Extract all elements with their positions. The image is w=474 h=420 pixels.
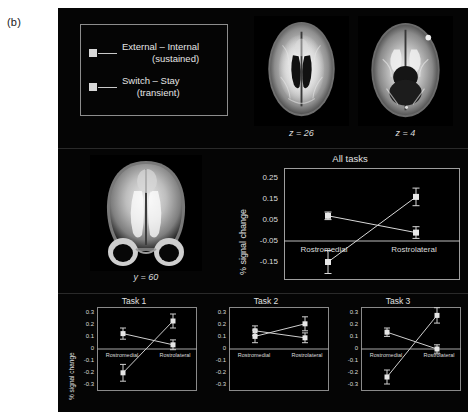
xtick-rostrolateral: Rostrolateral xyxy=(282,352,332,358)
chart-all-tasks: All tasks % signal change 0.25 0.15 0.05… xyxy=(234,153,466,289)
brain-image-axial-1 xyxy=(254,16,349,126)
chart-task-1: Task 1 % signal change 0.3 0.2 0.1 0 -0.… xyxy=(66,296,202,410)
legend-label-transient-line1: Switch – Stay xyxy=(122,75,180,86)
xtick-rostrolateral: Rostrolateral xyxy=(414,352,464,358)
brain-image-coronal xyxy=(90,155,202,271)
xtick-rostromedial: Rostromedial xyxy=(286,245,362,254)
coronal-slice-y60-caption: y = 60 xyxy=(90,272,202,282)
ytick-2: 0.05 xyxy=(252,215,278,224)
axial-slice-z26: z = 26 xyxy=(254,16,349,126)
legend: External – Internal (sustained) Switch –… xyxy=(80,24,228,116)
square-marker-icon xyxy=(89,49,97,57)
figure-container: External – Internal (sustained) Switch –… xyxy=(58,8,468,412)
chart-all-tasks-ylabel: % signal change xyxy=(238,209,248,275)
legend-label-sustained: External – Internal (sustained) xyxy=(122,41,199,65)
ytick-4: -0.15 xyxy=(252,257,278,266)
legend-label-sustained-line2: (sustained) xyxy=(122,53,199,65)
ytick-0: 0.3 xyxy=(340,309,358,315)
chart-task-3: Task 3 0.3 0.2 0.1 0 -0.1 -0.2 -0.3 xyxy=(330,296,466,410)
ytick-3: 0 xyxy=(340,345,358,351)
chart-all-tasks-title: All tasks xyxy=(234,153,466,164)
ytick-3: 0 xyxy=(76,345,94,351)
ytick-1: 0.15 xyxy=(252,194,278,203)
ytick-4: -0.1 xyxy=(76,357,94,363)
ytick-4: -0.1 xyxy=(340,357,358,363)
ytick-2: 0.1 xyxy=(340,333,358,339)
ytick-0: 0.25 xyxy=(252,173,278,182)
ytick-2: 0.1 xyxy=(208,333,226,339)
xtick-rostromedial: Rostromedial xyxy=(230,352,278,358)
chart-task-3-plot xyxy=(361,307,461,391)
legend-item-transient: Switch – Stay (transient) xyxy=(89,75,180,99)
ytick-3: -0.05 xyxy=(252,236,278,245)
ytick-6: -0.3 xyxy=(76,381,94,387)
figure-band-top: External – Internal (sustained) Switch –… xyxy=(58,8,468,149)
chart-task-2: Task 2 0.3 0.2 0.1 0 -0.1 -0.2 -0.3 xyxy=(198,296,334,410)
ytick-5: -0.2 xyxy=(208,369,226,375)
axial-slice-z26-caption: z = 26 xyxy=(254,128,349,138)
axial-slice-z4: z = 4 xyxy=(358,16,453,126)
ytick-6: -0.3 xyxy=(340,381,358,387)
ytick-0: 0.3 xyxy=(208,309,226,315)
ytick-5: -0.2 xyxy=(340,369,358,375)
ytick-3: 0 xyxy=(208,345,226,351)
ytick-5: -0.2 xyxy=(76,369,94,375)
chart-task-2-title: Task 2 xyxy=(198,296,334,306)
legend-label-transient: Switch – Stay (transient) xyxy=(122,75,180,99)
panel-label: (b) xyxy=(7,16,21,28)
chart-task-2-plot xyxy=(229,307,329,391)
legend-line-icon xyxy=(98,53,117,54)
xtick-rostrolateral: Rostrolateral xyxy=(376,245,452,254)
chart-task-1-ylabel: % signal change xyxy=(68,352,75,400)
legend-line-icon xyxy=(98,87,117,88)
xtick-rostromedial: Rostromedial xyxy=(98,352,146,358)
axial-slice-z4-caption: z = 4 xyxy=(358,128,453,138)
ytick-0: 0.3 xyxy=(76,309,94,315)
chart-task-1-plot xyxy=(97,307,197,391)
ytick-2: 0.1 xyxy=(76,333,94,339)
ytick-1: 0.2 xyxy=(76,321,94,327)
brain-image-axial-2 xyxy=(358,16,453,126)
square-marker-icon xyxy=(89,83,97,91)
ytick-1: 0.2 xyxy=(340,321,358,327)
legend-label-sustained-line1: External – Internal xyxy=(122,41,199,52)
chart-task-1-title: Task 1 xyxy=(66,296,202,306)
ytick-1: 0.2 xyxy=(208,321,226,327)
chart-task-3-title: Task 3 xyxy=(330,296,466,306)
xtick-rostrolateral: Rostrolateral xyxy=(150,352,200,358)
coronal-slice-y60: y = 60 xyxy=(90,155,202,271)
ytick-6: -0.3 xyxy=(208,381,226,387)
ytick-4: -0.1 xyxy=(208,357,226,363)
figure-band-middle: y = 60 All tasks % signal change 0.25 0.… xyxy=(58,149,468,294)
chart-all-tasks-plot xyxy=(284,168,460,280)
figure-band-bottom: Task 1 % signal change 0.3 0.2 0.1 0 -0.… xyxy=(58,294,468,412)
legend-label-transient-line2: (transient) xyxy=(122,87,180,99)
xtick-rostromedial: Rostromedial xyxy=(362,352,410,358)
legend-item-sustained: External – Internal (sustained) xyxy=(89,41,199,65)
